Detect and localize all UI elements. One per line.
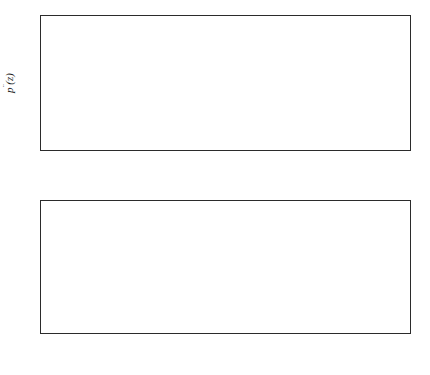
top-plot-frame (41, 16, 411, 151)
figure-container: p¨(z) (0, 0, 430, 375)
bottom-panel-svg (0, 185, 430, 375)
bottom-plot-frame (41, 201, 411, 334)
top-y-axis-label-group: p¨(z) (2, 73, 16, 94)
top-panel-svg: p¨(z) (0, 0, 430, 190)
top-panel: p¨(z) (0, 0, 430, 190)
bottom-panel (0, 185, 430, 375)
top-y-axis-label: p¨(z) (2, 73, 16, 94)
